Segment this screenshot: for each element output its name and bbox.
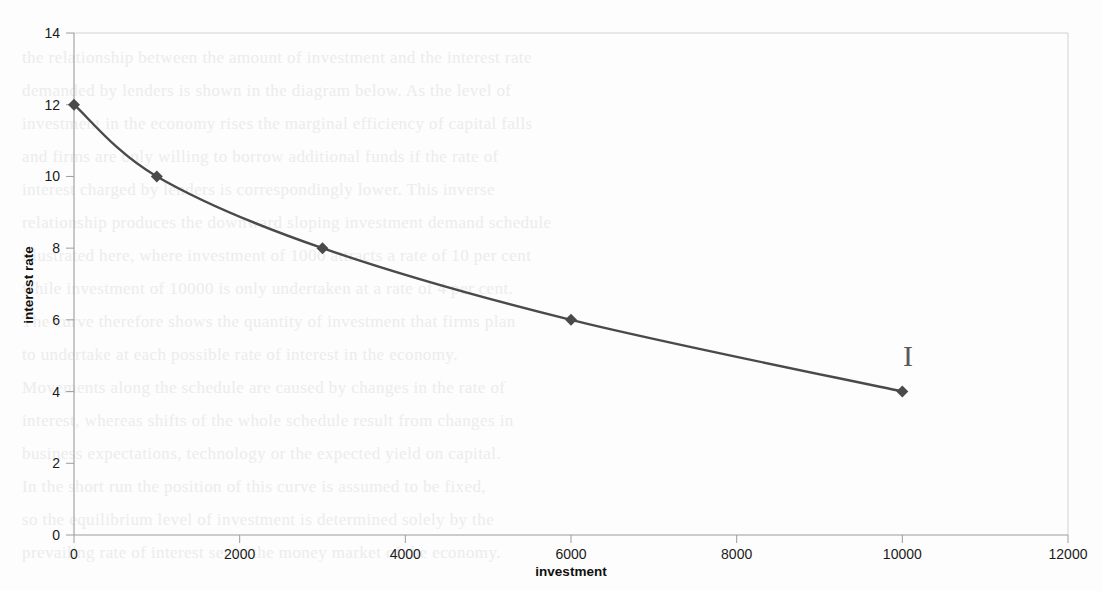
x-tick-label: 6000 — [555, 546, 586, 562]
y-tick-label: 12 — [44, 97, 60, 113]
investment-interest-rate-chart: 02468101214 020004000600080001000012000 … — [0, 0, 1103, 591]
x-axis-title: investment — [535, 564, 607, 579]
x-tick-label: 2000 — [224, 546, 255, 562]
y-axis-title: interest rate — [21, 246, 36, 324]
y-tick-label: 4 — [52, 384, 60, 400]
x-tick-label: 12000 — [1049, 546, 1088, 562]
y-tick-label: 2 — [52, 455, 60, 471]
data-point-marker — [151, 170, 163, 182]
y-tick-label: 8 — [52, 240, 60, 256]
y-tick-label: 14 — [44, 25, 60, 41]
y-tick-label: 10 — [44, 168, 60, 184]
series-investment-demand — [68, 99, 908, 398]
data-point-marker — [565, 314, 577, 326]
plot-frame — [74, 33, 1068, 535]
data-point-marker — [896, 386, 908, 398]
chart-page: the relationship between the amount of i… — [0, 0, 1103, 591]
x-tick-label: 0 — [70, 546, 78, 562]
x-axis-tick-labels: 020004000600080001000012000 — [70, 546, 1088, 562]
data-point-marker — [317, 242, 329, 254]
x-tick-label: 10000 — [883, 546, 922, 562]
series-markers — [68, 99, 908, 398]
x-tick-label: 8000 — [721, 546, 752, 562]
chart-svg: 02468101214 020004000600080001000012000 … — [0, 0, 1103, 591]
axes — [74, 33, 1068, 535]
y-tick-label: 6 — [52, 312, 60, 328]
x-axis-ticks — [74, 535, 1068, 543]
stray-letter-mark: I — [903, 339, 913, 372]
series-line — [74, 105, 902, 392]
y-axis-tick-labels: 02468101214 — [44, 25, 60, 543]
x-tick-label: 4000 — [390, 546, 421, 562]
y-tick-label: 0 — [52, 527, 60, 543]
